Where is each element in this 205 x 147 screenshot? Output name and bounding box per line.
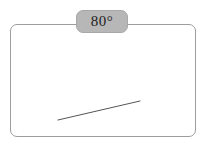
canvas-stage: 80°: [0, 0, 205, 147]
angle-badge[interactable]: 80°: [76, 10, 128, 33]
angle-badge-label: 80°: [91, 14, 114, 29]
bounding-rectangle: [10, 24, 196, 137]
